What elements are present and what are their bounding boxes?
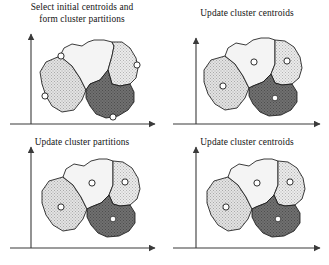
panel-update-cluster-partitions: Update cluster partitions xyxy=(0,133,164,265)
centroid-marker xyxy=(272,95,278,101)
centroid-marker xyxy=(254,180,260,186)
plot-area xyxy=(0,133,164,265)
centroid-marker xyxy=(110,216,116,222)
centroid-marker xyxy=(223,204,229,210)
centroid-marker xyxy=(134,62,140,68)
panel-select-initial-centroids: Select initial centroids and form cluste… xyxy=(0,0,164,132)
cluster-regions xyxy=(204,38,302,116)
centroid-marker xyxy=(110,114,116,120)
centroid-marker xyxy=(220,83,226,89)
cluster-regions xyxy=(207,159,305,237)
centroid-marker xyxy=(122,179,128,185)
kmeans-figure: Select initial centroids and form cluste… xyxy=(0,0,329,265)
centroid-marker xyxy=(275,216,281,222)
cluster-regions xyxy=(42,159,140,237)
panel-update-cluster-centroids-2: Update cluster centroids xyxy=(165,133,329,265)
plot-area xyxy=(0,0,164,132)
centroid-marker xyxy=(58,53,64,59)
panel-update-cluster-centroids-1: Update cluster centroids xyxy=(165,0,329,132)
centroid-marker xyxy=(251,59,257,65)
plot-area xyxy=(165,0,329,132)
cluster-regions xyxy=(40,40,138,118)
centroid-marker xyxy=(89,180,95,186)
plot-area xyxy=(165,133,329,265)
centroid-marker xyxy=(58,204,64,210)
centroid-marker xyxy=(284,58,290,64)
centroid-marker xyxy=(42,93,48,99)
centroid-marker xyxy=(287,179,293,185)
